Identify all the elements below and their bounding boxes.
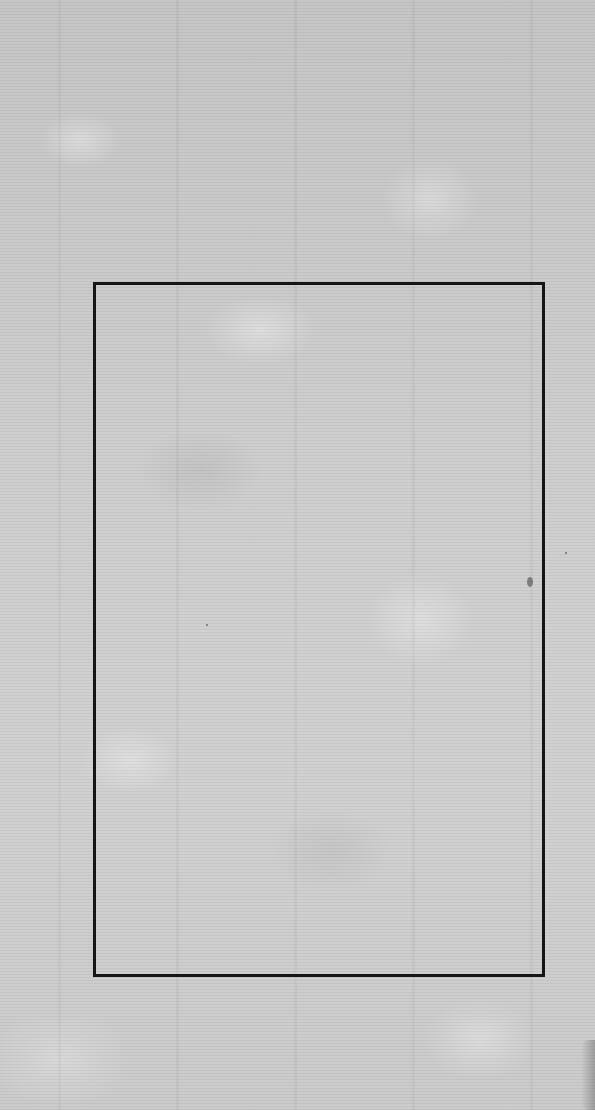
edge-stain (581, 1040, 595, 1110)
ink-spot (527, 577, 533, 587)
scanned-page (0, 0, 595, 1110)
ink-speck (565, 552, 567, 554)
rectangular-frame-border (93, 282, 545, 977)
ink-speck (206, 624, 208, 626)
